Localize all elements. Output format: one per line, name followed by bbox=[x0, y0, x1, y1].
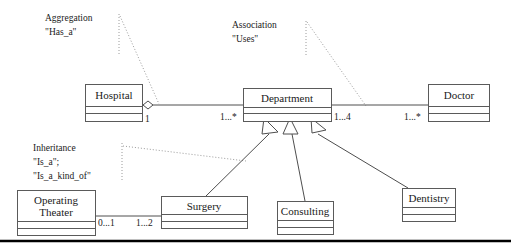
annotation-association: Association "Uses" bbox=[232, 20, 277, 44]
multiplicity-department-left-end: 1...* bbox=[220, 112, 237, 122]
class-name-operating-theater-line1: Operating bbox=[34, 194, 78, 206]
annotation-association-line1: Association bbox=[232, 20, 277, 30]
class-name-department: Department bbox=[261, 92, 313, 104]
aggregation-diamond-icon bbox=[143, 101, 153, 109]
leader-inheritance-diagonal bbox=[123, 146, 246, 161]
class-name-dentistry: Dentistry bbox=[409, 192, 450, 204]
multiplicity-hospital-end: 1 bbox=[145, 114, 150, 124]
class-name-operating-theater-line2: Theater bbox=[39, 206, 73, 218]
connector-consulting-department bbox=[292, 134, 305, 201]
class-box-surgery[interactable]: Surgery bbox=[162, 197, 248, 229]
annotation-inheritance-line2: "Is_a"; bbox=[33, 157, 59, 167]
annotation-association-line2: "Uses" bbox=[232, 34, 258, 44]
class-name-surgery: Surgery bbox=[187, 200, 222, 212]
annotation-inheritance-line3: "Is_a_kind_of" bbox=[33, 171, 91, 181]
class-name-consulting: Consulting bbox=[281, 205, 330, 217]
class-box-department[interactable]: Department bbox=[244, 89, 332, 122]
uml-class-diagram: Hospital Department Doctor Operating The… bbox=[0, 0, 511, 251]
annotation-aggregation-line2: "Has_a" bbox=[45, 27, 77, 37]
annotation-aggregation-line1: Aggregation bbox=[45, 13, 93, 23]
diagram-canvas: Hospital Department Doctor Operating The… bbox=[0, 0, 511, 251]
multiplicity-operating-theater-end: 0...1 bbox=[98, 218, 115, 228]
multiplicity-surgery-end: 1...2 bbox=[136, 218, 153, 228]
class-box-operating-theater[interactable]: Operating Theater bbox=[18, 191, 96, 236]
annotation-inheritance: Inheritance "Is_a"; "Is_a_kind_of" bbox=[33, 143, 91, 181]
class-name-doctor: Doctor bbox=[444, 89, 475, 101]
annotation-inheritance-line1: Inheritance bbox=[33, 143, 76, 153]
multiplicity-doctor-end: 1...* bbox=[404, 112, 421, 122]
connector-dentistry-department bbox=[318, 134, 408, 188]
annotation-aggregation: Aggregation "Has_a" bbox=[45, 13, 93, 37]
class-box-hospital[interactable]: Hospital bbox=[86, 85, 143, 122]
multiplicity-department-right-end: 1...4 bbox=[334, 112, 351, 122]
class-box-consulting[interactable]: Consulting bbox=[278, 202, 334, 235]
class-name-hospital: Hospital bbox=[95, 89, 132, 101]
class-box-doctor[interactable]: Doctor bbox=[429, 85, 490, 122]
connector-surgery-department bbox=[206, 134, 269, 196]
class-box-dentistry[interactable]: Dentistry bbox=[403, 189, 456, 222]
